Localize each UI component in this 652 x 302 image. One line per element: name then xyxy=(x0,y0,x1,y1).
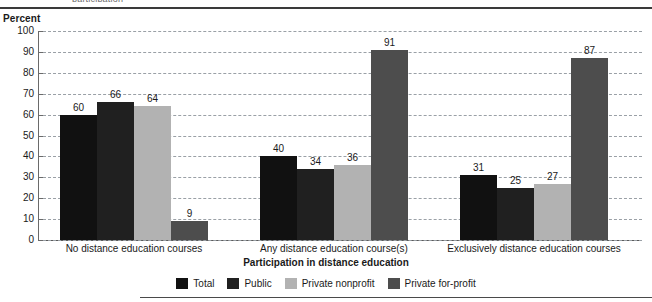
bar[interactable]: 25 xyxy=(497,188,534,240)
x-axis-title: Participation in distance education xyxy=(0,257,652,268)
y-axis-tick-label: 60 xyxy=(4,109,34,120)
bar-value-label: 9 xyxy=(171,208,208,221)
top-horizontal-rule xyxy=(0,7,652,9)
y-axis-tick-label: 70 xyxy=(4,88,34,99)
y-axis-tick-mark xyxy=(38,94,43,95)
y-axis-tick-label: 50 xyxy=(4,130,34,141)
y-axis-tick-mark xyxy=(38,219,43,220)
bar-value-label: 87 xyxy=(571,45,608,58)
cut-off-header-text: participation xyxy=(72,0,123,2)
y-axis-tick-mark xyxy=(38,115,43,116)
chart-plot-area: 60666494034369131252787 xyxy=(38,31,642,240)
bar[interactable]: 91 xyxy=(371,50,408,240)
y-axis-tick-label: 20 xyxy=(4,192,34,203)
bar[interactable]: 40 xyxy=(260,156,297,240)
legend-item[interactable]: Private nonprofit xyxy=(285,278,375,289)
bar-value-label: 91 xyxy=(371,37,408,50)
x-axis-group-label: Exclusively distance education courses xyxy=(424,243,644,254)
bar-value-label: 27 xyxy=(534,171,571,184)
gridline xyxy=(38,240,642,241)
bar[interactable]: 27 xyxy=(534,184,571,240)
legend-item[interactable]: Total xyxy=(176,278,214,289)
y-axis-title: Percent xyxy=(3,13,40,24)
bar-value-label: 34 xyxy=(297,156,334,169)
bar-group: 31252787 xyxy=(460,31,608,240)
bar[interactable]: 36 xyxy=(334,165,371,240)
bar[interactable]: 87 xyxy=(571,58,608,240)
legend-label: Private for-profit xyxy=(405,278,476,289)
bar[interactable]: 60 xyxy=(60,115,97,240)
legend-swatch xyxy=(285,278,297,289)
bar-group: 40343691 xyxy=(260,31,408,240)
y-axis-tick-label: 90 xyxy=(4,46,34,57)
legend-label: Total xyxy=(193,278,214,289)
bar-group: 6066649 xyxy=(60,31,208,240)
bar-value-label: 40 xyxy=(260,143,297,156)
y-axis-tick-labels: 1009080706050403020100 xyxy=(0,31,34,241)
y-axis-tick-mark xyxy=(38,177,43,178)
legend-swatch xyxy=(388,278,400,289)
legend-swatch xyxy=(176,278,188,289)
bar-value-label: 64 xyxy=(134,93,171,106)
y-axis-tick-mark xyxy=(38,31,43,32)
y-axis-tick-mark xyxy=(38,52,43,53)
bar[interactable]: 34 xyxy=(297,169,334,240)
legend-item[interactable]: Private for-profit xyxy=(388,278,476,289)
legend-swatch xyxy=(227,278,239,289)
legend-label: Private nonprofit xyxy=(302,278,375,289)
x-axis-group-label: No distance education courses xyxy=(24,243,244,254)
legend-label: Public xyxy=(244,278,271,289)
bar-value-label: 66 xyxy=(97,89,134,102)
bar-value-label: 31 xyxy=(460,162,497,175)
y-axis-tick-mark xyxy=(38,240,43,241)
y-axis-tick-label: 30 xyxy=(4,171,34,182)
y-axis-tick-mark xyxy=(38,73,43,74)
y-axis-tick-label: 100 xyxy=(4,25,34,36)
bar-value-label: 36 xyxy=(334,152,371,165)
bar[interactable]: 9 xyxy=(171,221,208,240)
legend-item[interactable]: Public xyxy=(227,278,271,289)
bar[interactable]: 66 xyxy=(97,102,134,240)
chart-legend: TotalPublicPrivate nonprofitPrivate for-… xyxy=(0,278,652,289)
bar-value-label: 25 xyxy=(497,175,534,188)
y-axis-tick-mark xyxy=(38,156,43,157)
y-axis-tick-label: 80 xyxy=(4,67,34,78)
bar[interactable]: 31 xyxy=(460,175,497,240)
y-axis-tick-label: 10 xyxy=(4,213,34,224)
y-axis-tick-mark xyxy=(38,198,43,199)
y-axis-tick-mark xyxy=(38,136,43,137)
bottom-horizontal-rule xyxy=(140,297,652,298)
bar-value-label: 60 xyxy=(60,102,97,115)
bar[interactable]: 64 xyxy=(134,106,171,240)
y-axis-tick-label: 40 xyxy=(4,150,34,161)
x-axis-group-label: Any distance education course(s) xyxy=(224,243,444,254)
